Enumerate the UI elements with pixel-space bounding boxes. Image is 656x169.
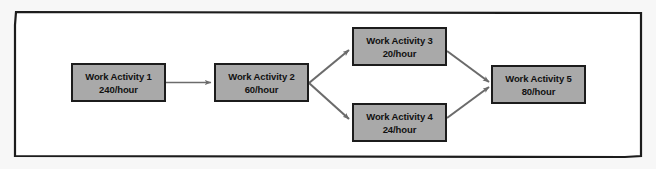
node-work-activity-1-title: Work Activity 1 bbox=[85, 70, 152, 83]
node-work-activity-5[interactable]: Work Activity 5 80/hour bbox=[491, 65, 586, 104]
node-work-activity-2-rate: 60/hour bbox=[245, 83, 279, 96]
node-work-activity-3[interactable]: Work Activity 3 20/hour bbox=[352, 27, 447, 66]
node-work-activity-4[interactable]: Work Activity 4 24/hour bbox=[352, 103, 447, 142]
node-work-activity-4-rate: 24/hour bbox=[383, 123, 417, 136]
diagram-canvas: Work Activity 1 240/hour Work Activity 2… bbox=[0, 0, 656, 169]
node-work-activity-4-title: Work Activity 4 bbox=[366, 110, 433, 123]
node-work-activity-3-rate: 20/hour bbox=[383, 47, 417, 60]
node-work-activity-3-title: Work Activity 3 bbox=[366, 34, 433, 47]
node-work-activity-1-rate: 240/hour bbox=[99, 83, 138, 96]
node-work-activity-2[interactable]: Work Activity 2 60/hour bbox=[214, 63, 309, 102]
node-work-activity-5-title: Work Activity 5 bbox=[505, 72, 572, 85]
node-work-activity-1[interactable]: Work Activity 1 240/hour bbox=[71, 63, 166, 102]
node-work-activity-5-rate: 80/hour bbox=[522, 85, 556, 98]
node-work-activity-2-title: Work Activity 2 bbox=[228, 70, 295, 83]
